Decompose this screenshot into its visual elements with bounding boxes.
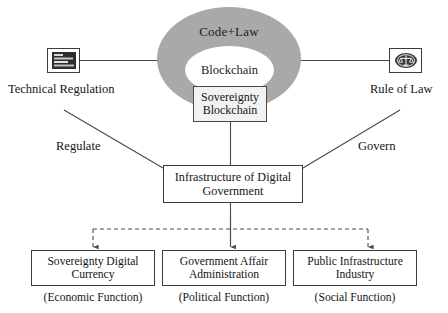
outcome-line1: Public Infrastructure xyxy=(307,255,403,268)
rule-of-law-label: Rule of Law xyxy=(370,82,432,97)
sovereignty-blockchain-line2: Blockchain xyxy=(203,104,258,117)
govern-label: Govern xyxy=(358,139,396,154)
sovereignty-blockchain-line1: Sovereignty xyxy=(201,91,259,104)
rule-of-law-icon-box xyxy=(389,48,422,73)
outcome-box-public-infrastructure-industry: Public Infrastructure Industry xyxy=(293,250,417,286)
outcome-caption-social: (Social Function) xyxy=(293,291,417,304)
outcome-line2: Administration xyxy=(189,268,259,281)
outcome-line1: Sovereignty Digital xyxy=(47,255,138,268)
outcome-caption-economic: (Economic Function) xyxy=(31,291,155,304)
technical-regulation-label: Technical Regulation xyxy=(8,82,114,97)
regulate-label: Regulate xyxy=(56,139,100,154)
outcome-line2: Industry xyxy=(336,268,375,281)
blockchain-label: Blockchain xyxy=(201,63,258,78)
code-law-label: Code+Law xyxy=(157,24,301,40)
code-lines-icon xyxy=(52,52,76,69)
outcome-caption-political: (Political Function) xyxy=(162,291,286,304)
infrastructure-line2: Government xyxy=(203,184,264,198)
outcome-box-government-affair-administration: Government Affair Administration xyxy=(162,250,286,286)
infrastructure-of-digital-government-box: Infrastructure of Digital Government xyxy=(163,165,303,203)
outcome-line2: Currency xyxy=(71,268,114,281)
outcome-line1: Government Affair xyxy=(180,255,268,268)
law-seal-icon xyxy=(394,52,418,69)
sovereignty-blockchain-box: Sovereignty Blockchain xyxy=(193,86,267,122)
outcome-box-sovereignty-digital-currency: Sovereignty Digital Currency xyxy=(31,250,155,286)
infrastructure-line1: Infrastructure of Digital xyxy=(175,170,291,184)
blockchain-governance-diagram: Code+Law Blockchain Sovereignty Blockcha… xyxy=(0,0,448,313)
technical-regulation-icon-box xyxy=(47,48,80,73)
